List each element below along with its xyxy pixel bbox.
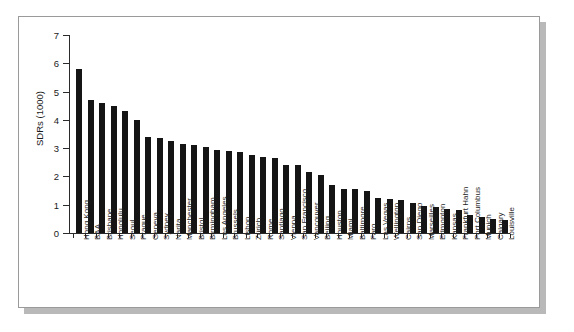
x-tick-label: Las Vegas (382, 203, 390, 240)
x-tick-label: Seoul (129, 220, 137, 240)
y-tick-label: 0 (37, 233, 59, 234)
x-tick-label: Narita (175, 219, 183, 240)
x-tick-label: Frankfurt Hahn (462, 187, 470, 240)
x-tick-label: Port Columbus (474, 187, 482, 240)
x-tick-label: Rome (267, 219, 275, 240)
x-tick-label: Calgary (497, 212, 505, 240)
x-tick-label: Beijing (324, 216, 332, 240)
x-tick-label: Edmonton (439, 204, 447, 240)
x-tick-label: Sydney (163, 213, 171, 240)
x-tick-label: Vancouver (313, 202, 321, 240)
x-tick-label: Geneva (152, 212, 160, 240)
x-tick-label: Wellington (393, 203, 401, 240)
x-tick-label: Manchester (186, 198, 194, 240)
x-tick-label: Baltimore (359, 206, 367, 240)
y-tick-mark (63, 233, 69, 234)
x-tick-label: Santiago (278, 208, 286, 240)
x-tick-label: Munich (485, 214, 493, 240)
x-tick-label: Brisbane (106, 208, 114, 240)
x-tick-label: Los Angeles (221, 196, 229, 240)
x-tick-label: Louisville (508, 207, 516, 240)
x-tick-label: Faro (370, 224, 378, 240)
x-tick-label: Miami (347, 219, 355, 240)
x-tick-label: Vienna (290, 215, 298, 240)
x-tick-label: Birmingham (209, 197, 217, 240)
x-tick-label: Lisbon (244, 216, 252, 240)
x-tick-mark (73, 234, 74, 238)
x-tick-label: Bristol (198, 218, 206, 240)
x-tick-label: Marseilles (428, 204, 436, 240)
chart-figure-frame: SDRs (1000) 01234567 Hong KongBAABrisban… (18, 16, 540, 308)
x-tick-label: Houston (336, 210, 344, 240)
x-tick-label: San Francisco (301, 189, 309, 240)
x-tick-label: BAA (94, 224, 102, 240)
x-tick-label: Honolulu (117, 208, 125, 240)
x-tick-label: Zürich (255, 218, 263, 240)
x-tick-label: Prague (140, 214, 148, 240)
x-tick-label: Cairns (405, 217, 413, 240)
x-tick-label: Hong Kong (83, 200, 91, 240)
bar-chart-plot-area: SDRs (1000) 01234567 Hong KongBAABrisban… (19, 17, 539, 307)
x-tick-label: Brussels (232, 209, 240, 240)
x-tick-label: Kansas (451, 213, 459, 240)
x-tick-label: San Diego (416, 203, 424, 240)
